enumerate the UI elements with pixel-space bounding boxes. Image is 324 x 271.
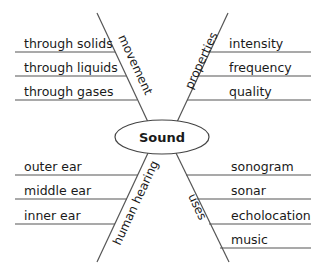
item-label: middle ear xyxy=(24,183,92,198)
item-label: through gases xyxy=(24,84,113,99)
item-label: sonogram xyxy=(231,159,294,174)
center-label: Sound xyxy=(139,130,185,145)
spider-map: Sound through solids through liquids thr… xyxy=(0,0,324,271)
item-label: intensity xyxy=(229,36,284,51)
item-label: echolocation xyxy=(231,208,311,223)
category-label-properties: properties xyxy=(182,30,221,91)
item-label: quality xyxy=(229,84,272,99)
category-label-human-hearing: human hearing xyxy=(110,158,161,247)
item-label: outer ear xyxy=(24,159,83,174)
item-label: through liquids xyxy=(24,60,118,75)
item-label: inner ear xyxy=(24,208,81,223)
item-label: frequency xyxy=(229,60,292,75)
item-label: sonar xyxy=(231,183,267,198)
item-label: through solids xyxy=(24,36,113,51)
item-label: music xyxy=(231,232,268,247)
category-label-uses: uses xyxy=(185,191,209,222)
